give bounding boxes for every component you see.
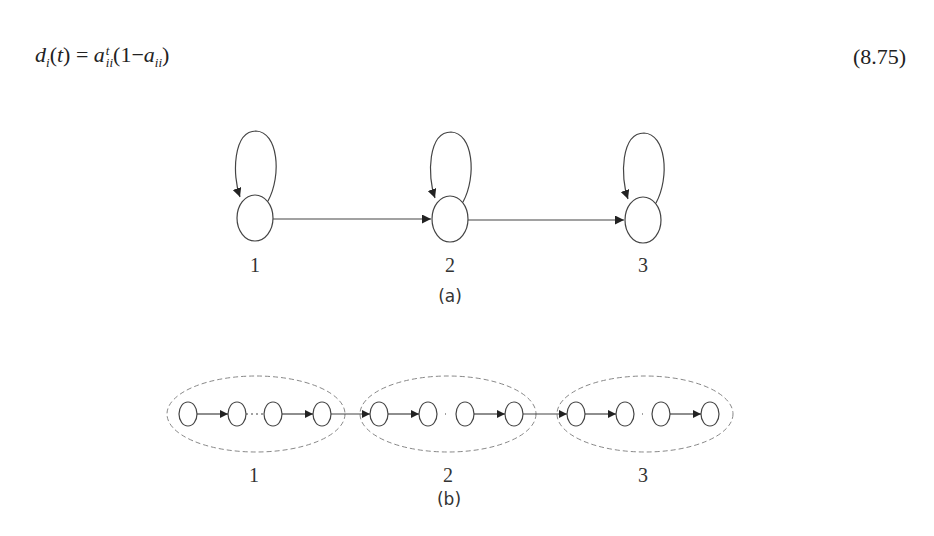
chain-node: [616, 402, 634, 426]
chain-node: [652, 402, 670, 426]
chain-node: [701, 402, 719, 426]
self-loop-arrow: [430, 132, 471, 202]
node-label-3: 3: [638, 254, 648, 276]
self-loop-arrow: [235, 131, 276, 201]
chain-node: [505, 402, 523, 426]
figure-b: [167, 376, 733, 452]
chain-node: [456, 402, 474, 426]
chain-node: [264, 402, 282, 426]
chain-node: [228, 402, 246, 426]
state-node-1: [235, 131, 276, 241]
chain-node: [179, 402, 197, 426]
self-loop-arrow: [623, 133, 664, 203]
node-label-2: 2: [445, 254, 455, 276]
group-label-1: 1: [249, 464, 259, 486]
caption-b: (b): [437, 489, 461, 509]
chain-node: [419, 402, 437, 426]
figure: 1 2 3 (a): [0, 0, 934, 536]
chain-node: [370, 402, 388, 426]
state-node-3: [623, 133, 664, 243]
figure-a: [235, 131, 664, 243]
state-node-2: [430, 132, 471, 242]
caption-a: (a): [438, 286, 462, 306]
chain-node: [313, 402, 331, 426]
group-label-3: 3: [638, 464, 648, 486]
group-label-2: 2: [443, 464, 453, 486]
chain-node: [567, 402, 585, 426]
node-label-1: 1: [250, 254, 260, 276]
